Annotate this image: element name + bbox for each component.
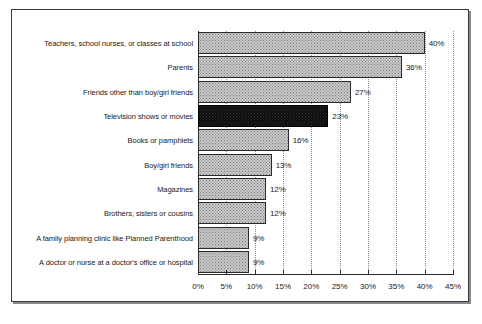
bar: [198, 227, 249, 249]
tick-label: 5%: [221, 282, 233, 291]
bar-value-label: 9%: [253, 257, 264, 266]
category-label: A doctor or nurse at a doctor's office o…: [39, 257, 193, 266]
tick-mark: [283, 270, 284, 275]
tick-label: 25%: [332, 282, 348, 291]
bar-value-label: 12%: [270, 184, 286, 193]
category-label: A family planning clinic like Planned Pa…: [36, 233, 193, 242]
tick-label: 0%: [192, 282, 204, 291]
tick-label: 10%: [247, 282, 263, 291]
tick-mark: [340, 270, 341, 275]
tick-mark: [311, 270, 312, 275]
bar-value-label: 27%: [355, 87, 371, 96]
bar: [198, 178, 266, 200]
x-axis: 0%5%10%15%20%25%30%35%40%45%: [198, 274, 453, 275]
bar-value-label: 16%: [293, 136, 309, 145]
bar: [198, 32, 425, 54]
tick-mark: [368, 270, 369, 275]
tick-label: 35%: [388, 282, 404, 291]
tick-mark: [396, 270, 397, 275]
category-label: Parents: [168, 63, 194, 72]
category-label: Boy/girl friends: [144, 160, 193, 169]
bar-row: A doctor or nurse at a doctor's office o…: [198, 251, 453, 273]
bar: [198, 105, 328, 127]
tick-label: 45%: [445, 282, 461, 291]
bar-row: Friends other than boy/girl friends27%: [198, 81, 453, 103]
tick-label: 30%: [360, 282, 376, 291]
bar-row: Parents36%: [198, 56, 453, 78]
figure-frame: Teachers, school nurses, or classes at s…: [11, 9, 469, 302]
bar-value-label: 9%: [253, 233, 264, 242]
category-label: Teachers, school nurses, or classes at s…: [44, 39, 193, 48]
bar: [198, 202, 266, 224]
tick-label: 40%: [417, 282, 433, 291]
bar: [198, 81, 351, 103]
tick-mark: [425, 270, 426, 275]
bar-value-label: 13%: [276, 160, 292, 169]
gridline-45%: [453, 31, 454, 274]
bar-row: Books or pamphlets16%: [198, 129, 453, 151]
bar-row: Television shows or movies23%: [198, 105, 453, 127]
bar-value-label: 36%: [406, 63, 422, 72]
bar: [198, 56, 402, 78]
category-label: Friends other than boy/girl friends: [83, 87, 193, 96]
bar-row: Teachers, school nurses, or classes at s…: [198, 32, 453, 54]
tick-mark: [453, 270, 454, 275]
bar-row: Brothers, sisters or cousins12%: [198, 202, 453, 224]
tick-mark: [255, 270, 256, 275]
tick-label: 20%: [303, 282, 319, 291]
bar-row: A family planning clinic like Planned Pa…: [198, 227, 453, 249]
tick-label: 15%: [275, 282, 291, 291]
category-label: Brothers, sisters or cousins: [104, 209, 193, 218]
bar: [198, 154, 272, 176]
bar: [198, 251, 249, 273]
category-label: Books or pamphlets: [128, 136, 193, 145]
tick-mark: [226, 270, 227, 275]
bar-row: Boy/girl friends13%: [198, 154, 453, 176]
bar-row: Magazines12%: [198, 178, 453, 200]
bar-value-label: 23%: [332, 112, 348, 121]
plot-area: Teachers, school nurses, or classes at s…: [198, 31, 453, 274]
bar: [198, 129, 289, 151]
bar-value-label: 12%: [270, 209, 286, 218]
bar-value-label: 40%: [429, 39, 445, 48]
chart-screenshot: Teachers, school nurses, or classes at s…: [0, 0, 482, 324]
tick-mark: [198, 270, 199, 275]
category-label: Magazines: [157, 184, 193, 193]
category-label: Television shows or movies: [103, 112, 193, 121]
